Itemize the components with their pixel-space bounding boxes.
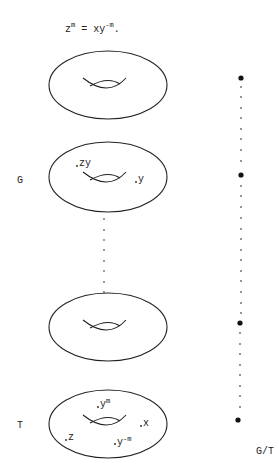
quotient-large-dot <box>238 172 243 177</box>
diagram-canvas <box>0 0 279 474</box>
point-label-y: y <box>138 175 144 185</box>
point-label-y-m: ym <box>100 398 110 410</box>
point-y-neg-m-dot <box>114 443 116 445</box>
torus-3 <box>49 293 167 361</box>
torus-g <box>49 142 167 212</box>
equation-period: . <box>114 24 120 35</box>
label-torus-t: T <box>17 421 23 431</box>
label-group-g: G <box>17 176 23 186</box>
equation: zm = xy-m. <box>65 21 120 35</box>
vertical-ellipsis <box>103 218 105 293</box>
quotient-large-dot <box>237 320 242 325</box>
point-y-dot <box>135 181 137 183</box>
point-ym-dot <box>97 406 99 408</box>
quotient-large-dot <box>235 417 240 422</box>
equation-equals: = <box>75 24 93 35</box>
quotient-dot-column <box>235 75 243 422</box>
point-label-y-neg-m: y-m <box>117 436 131 448</box>
point-label-y-m-exp: m <box>106 397 110 405</box>
point-x-dot <box>140 425 142 427</box>
point-z-dot <box>65 439 67 441</box>
point-label-zy: zy <box>79 159 91 169</box>
equation-rhs: xy <box>93 24 105 35</box>
quotient-large-dot <box>238 75 243 80</box>
point-label-x: x <box>143 419 149 429</box>
equation-rhs-exponent: -m <box>105 21 113 29</box>
point-zy-dot <box>76 165 78 167</box>
label-quotient-gt: G/T <box>256 447 274 457</box>
point-label-y-neg-m-exp: -m <box>123 435 131 443</box>
point-label-z: z <box>68 433 74 443</box>
torus-1 <box>49 51 167 119</box>
